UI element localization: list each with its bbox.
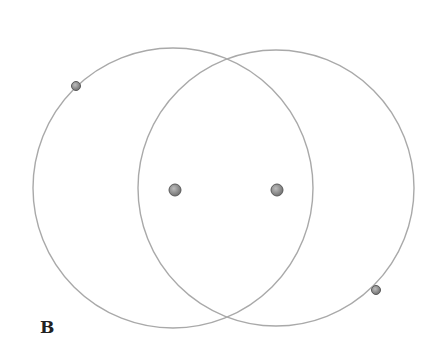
circles-group: [33, 48, 414, 328]
left-center-point: [169, 184, 181, 196]
right-center-point: [271, 184, 283, 196]
two-circles-diagram: [0, 0, 437, 349]
points-group: [72, 82, 381, 295]
point-on-right-circle: [372, 286, 381, 295]
figure-label: B: [40, 319, 54, 336]
point-on-left-circle: [72, 82, 81, 91]
